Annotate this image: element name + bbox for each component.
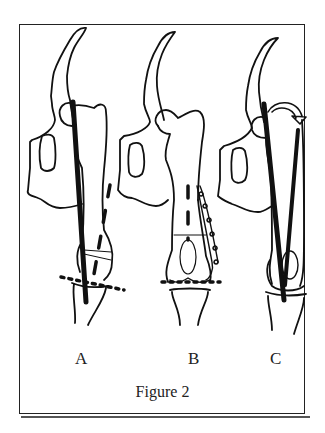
panel-c-pelvis — [218, 38, 278, 212]
panel-c-obturator-foramen — [231, 148, 247, 183]
panel-a-osteotomy-line — [84, 250, 111, 260]
panel-label-c: C — [270, 349, 281, 369]
panel-b-femur-lateral — [198, 200, 211, 282]
panel-b-drawing — [118, 32, 220, 325]
panel-label-a: A — [75, 349, 87, 369]
panel-a-tibia — [72, 283, 108, 325]
panel-b-obturator-foramen — [128, 143, 144, 177]
figure-caption: Figure 2 — [0, 383, 325, 401]
panel-a-obturator-foramen — [40, 135, 56, 171]
panel-b-plate — [197, 186, 218, 280]
panel-c-drawing — [218, 38, 306, 334]
panel-b-tibia — [170, 289, 210, 326]
panel-b-pelvis — [118, 32, 175, 206]
panel-label-b: B — [188, 349, 199, 369]
panel-b-patella — [180, 240, 196, 274]
panel-c-implant-bar-2 — [285, 130, 298, 285]
panel-b-femur-medial — [158, 126, 174, 282]
panel-c-rotation-arrow — [268, 103, 306, 124]
panel-a-drawing — [28, 28, 124, 325]
